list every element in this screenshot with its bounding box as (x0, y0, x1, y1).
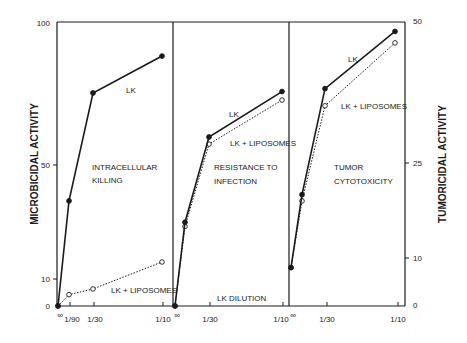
x-tick-1-10: 1/10 (273, 315, 289, 324)
series-line-lk-liposomes (291, 43, 395, 268)
x-tick-inf: ∞ (290, 311, 296, 320)
left-tick-100: 100 (37, 19, 51, 28)
panel2-lklip-label: LK + LIPOSOMES (230, 139, 296, 148)
x-tick-1-90: 1/90 (64, 315, 80, 324)
data-point-filled (289, 265, 294, 270)
data-point-filled (173, 304, 178, 309)
data-point-filled (280, 89, 285, 94)
right-tick-50: 50 (413, 17, 422, 26)
series-line-lk (291, 31, 395, 267)
x-axis-title: LK DILUTION (217, 294, 267, 303)
data-point-filled (393, 29, 398, 34)
data-point-open (160, 260, 165, 265)
right-tick-25: 25 (413, 159, 422, 168)
panel1-title: INTRACELLULAR (92, 163, 158, 172)
data-point-open (280, 98, 285, 103)
chart: 100 50 10 0 50 25 10 0 MICROBICIDAL ACTI… (0, 0, 467, 343)
left-tick-10: 10 (41, 275, 50, 284)
x-tick-1-10: 1/10 (155, 315, 171, 324)
data-point-open (393, 41, 398, 46)
panel3-lklip-label: LK + LIPOSOMES (341, 102, 407, 111)
x-tick-inf: ∞ (57, 311, 63, 320)
series-line-lk-liposomes (58, 262, 162, 306)
data-point-filled (91, 91, 96, 96)
left-axis-title: MICROBICIDAL ACTIVITY (29, 103, 40, 225)
right-tick-10: 10 (413, 254, 422, 263)
x-axis-labels: ∞ 1/90 1/30 1/10 ∞ 1/30 1/10 ∞ 1/30 1/10 (57, 311, 406, 324)
left-tick-0: 0 (46, 302, 51, 311)
data-point-open (91, 287, 96, 292)
panel2-title: INFECTION (214, 177, 257, 186)
panel1-lklip-label: LK + LIPOSOMES (111, 286, 177, 295)
data-point-filled (300, 192, 305, 197)
panel3-lk-label: LK (348, 55, 358, 64)
panel3-title: TUMOR (334, 163, 364, 172)
panel1-lk-label: LK (126, 86, 136, 95)
data-point-filled (67, 199, 72, 204)
data-point-filled (207, 135, 212, 140)
x-tick-1-30: 1/30 (202, 315, 218, 324)
x-tick-inf: ∞ (174, 311, 180, 320)
panel1-title: KILLING (92, 176, 123, 185)
data-point-filled (160, 54, 165, 59)
series-line-lk (175, 92, 282, 306)
right-axis-title: TUMORICIDAL ACTIVITY (437, 105, 448, 223)
x-tick-1-30: 1/30 (319, 315, 335, 324)
data-point-open (323, 104, 328, 109)
panel2-title: RESISTANCE TO (214, 163, 278, 172)
data-point-filled (183, 220, 188, 225)
left-tick-50: 50 (41, 161, 50, 170)
x-tick-1-30: 1/30 (87, 315, 103, 324)
panel2-lk-label: LK (229, 110, 239, 119)
x-tick-1-10: 1/10 (390, 315, 406, 324)
data-point-open (67, 292, 72, 297)
data-point-filled (323, 86, 328, 91)
right-tick-0: 0 (413, 301, 418, 310)
data-point-filled (56, 304, 61, 309)
panel3-title: CYTOTOXICITY (334, 177, 393, 186)
